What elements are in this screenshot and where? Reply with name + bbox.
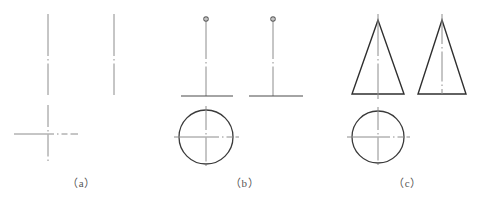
panel-a: （a） <box>0 0 163 204</box>
panel-c-caption: （c） <box>326 176 489 190</box>
panel-b-caption: （b） <box>163 176 326 190</box>
figure-root: （a） （b） <box>0 0 489 204</box>
panel-a-caption: （a） <box>0 176 163 190</box>
panel-b-drawing <box>163 0 326 175</box>
panel-a-drawing <box>0 0 163 175</box>
panel-c: （c） <box>326 0 489 204</box>
panel-c-drawing <box>326 0 489 175</box>
panel-b: （b） <box>163 0 326 204</box>
